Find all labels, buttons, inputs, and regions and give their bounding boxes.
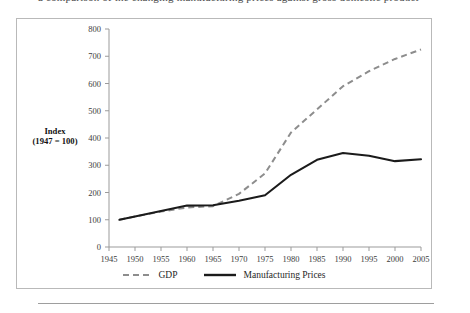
x-tick-label: 1980 (283, 254, 300, 264)
y-tick-label: 0 (97, 242, 101, 252)
top-caption-text: a comparison of the changing manufacturi… (0, 0, 470, 3)
y-tick-label: 200 (88, 188, 101, 198)
x-tick-label: 1985 (309, 254, 326, 264)
chart-legend: GDP Manufacturing Prices (17, 270, 431, 280)
x-tick-label: 1970 (231, 254, 248, 264)
legend-swatch-gdp (122, 271, 152, 279)
x-tick-label: 1950 (127, 254, 144, 264)
line-chart: 0100200300400500600700800 19451950195519… (17, 19, 433, 290)
x-tick-label: 2000 (387, 254, 404, 264)
y-tick-label: 100 (88, 215, 101, 225)
x-tick-label: 2005 (413, 254, 430, 264)
legend-item-gdp[interactable]: GDP (122, 270, 177, 280)
series-line-gdp (119, 49, 421, 219)
x-axis-ticks: 1945195019551960196519701975198019851990… (101, 247, 430, 264)
x-tick-label: 1960 (179, 254, 196, 264)
x-tick-label: 1995 (361, 254, 378, 264)
footer-divider (38, 303, 434, 304)
x-tick-label: 1975 (257, 254, 274, 264)
y-tick-label: 800 (88, 24, 101, 34)
x-tick-label: 1955 (153, 254, 170, 264)
x-tick-label: 1990 (335, 254, 352, 264)
y-tick-label: 300 (88, 160, 101, 170)
legend-swatch-manufacturing-prices (203, 271, 237, 279)
y-tick-label: 500 (88, 106, 101, 116)
legend-item-manufacturing-prices[interactable]: Manufacturing Prices (203, 270, 325, 280)
legend-label-gdp: GDP (158, 270, 177, 280)
y-axis-title-line2: (1947 = 100) (33, 136, 78, 146)
top-caption-clipped: a comparison of the changing manufacturi… (0, 0, 470, 5)
y-axis-ticks: 0100200300400500600700800 (88, 24, 109, 252)
plot-area: 0100200300400500600700800 19451950195519… (17, 19, 433, 290)
series-line-manufacturing-prices (119, 153, 421, 220)
chart-container: 0100200300400500600700800 19451950195519… (16, 18, 432, 289)
y-tick-label: 600 (88, 79, 101, 89)
x-tick-label: 1965 (205, 254, 222, 264)
y-tick-label: 700 (88, 51, 101, 61)
y-axis-title-line1: Index (44, 126, 66, 136)
legend-label-manufacturing-prices: Manufacturing Prices (243, 270, 325, 280)
x-tick-label: 1945 (101, 254, 118, 264)
y-tick-label: 400 (88, 133, 101, 143)
